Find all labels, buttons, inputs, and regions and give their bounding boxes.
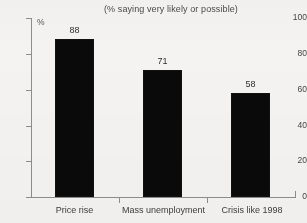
- y-tick-label-60: 60: [283, 85, 307, 94]
- x-axis-line: [31, 197, 296, 198]
- x-separator-tick-2: [207, 197, 208, 203]
- bar-value-crisis-like-1998: 58: [231, 80, 270, 89]
- chart-title: (% saying very likely or possible): [104, 4, 238, 14]
- y-tick-60: [26, 90, 31, 91]
- y-tick-100: [26, 18, 31, 19]
- y-tick-label-40: 40: [283, 121, 307, 130]
- x-category-label-price-rise: Price rise: [39, 206, 110, 215]
- y-axis-unit-label: %: [37, 17, 45, 27]
- y-tick-label-20: 20: [283, 156, 307, 165]
- y-tick-label-80: 80: [283, 49, 307, 58]
- y-tick-40: [26, 126, 31, 127]
- bar-price-rise: [55, 39, 94, 197]
- bar-crisis-like-1998: [231, 93, 270, 197]
- y-tick-20: [26, 161, 31, 162]
- y-tick-label-0: 0: [283, 192, 307, 201]
- x-category-label-crisis-like-1998: Crisis like 1998: [208, 206, 296, 215]
- y-tick-0: [26, 197, 31, 198]
- bar-mass-unemployment: [143, 70, 182, 197]
- bar-value-mass-unemployment: 71: [143, 57, 182, 66]
- x-separator-tick-1: [119, 197, 120, 203]
- y-tick-80: [26, 54, 31, 55]
- bar-chart: (% saying very likely or possible) % 100…: [0, 0, 307, 223]
- bar-value-price-rise: 88: [55, 26, 94, 35]
- y-axis-line: [31, 18, 32, 198]
- y-tick-label-100: 100: [283, 13, 307, 22]
- x-category-label-mass-unemployment: Mass unemployment: [120, 206, 207, 215]
